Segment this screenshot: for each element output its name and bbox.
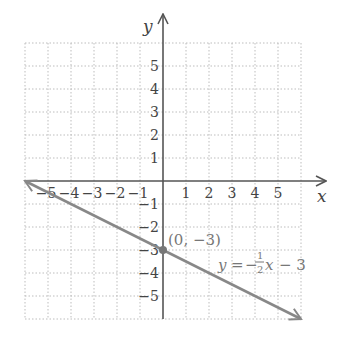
eq-y: y	[217, 256, 227, 274]
x-tick: −2	[105, 185, 126, 201]
y-tick: 3	[150, 104, 159, 120]
y-tick: 2	[150, 127, 159, 143]
y-intercept-point	[159, 246, 167, 254]
x-tick: 5	[274, 185, 283, 201]
eq-tail: − 3	[279, 256, 306, 274]
x-tick: 4	[251, 185, 260, 201]
equation-label: y = − 1 2 x − 3	[217, 250, 306, 275]
eq-numerator: 1	[257, 250, 263, 261]
y-tick: −1	[138, 196, 159, 212]
x-tick: 1	[182, 185, 191, 201]
coordinate-plane: x y −5 −4 −3 −2 −1 1 2 3 4 5 5 4 3 2 1 −…	[0, 0, 345, 348]
eq-denominator: 2	[257, 264, 263, 275]
x-axis-label: x	[317, 186, 327, 206]
x-tick: 3	[228, 185, 237, 201]
y-axis-label: y	[142, 16, 153, 36]
y-tick: −3	[138, 242, 159, 258]
x-tick-labels: −5 −4 −3 −2 −1 1 2 3 4 5	[36, 185, 283, 201]
point-label: (0, −3)	[168, 231, 221, 249]
y-tick: 4	[150, 81, 159, 97]
y-tick: 1	[150, 150, 159, 166]
y-tick: −4	[138, 265, 159, 281]
eq-equals: =	[231, 256, 244, 274]
y-tick: −5	[138, 288, 159, 304]
y-tick: 5	[150, 58, 159, 74]
y-tick: −2	[138, 219, 159, 235]
eq-x: x	[265, 256, 274, 274]
x-tick: 2	[205, 185, 214, 201]
x-tick: −3	[82, 185, 103, 201]
eq-minus: −	[245, 256, 258, 274]
